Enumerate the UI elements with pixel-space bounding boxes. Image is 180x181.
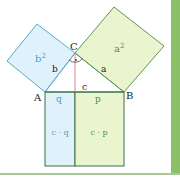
segment-q-label: q [56,94,62,104]
vertex-c-label: C [70,41,78,52]
rect-cq-label: c · q [51,128,68,137]
side-b-label: b [52,64,58,74]
bottom-rule [0,173,180,175]
vertex-b-label: B [126,90,133,101]
pythagoras-euclid-diagram: C A B b a c b2 a2 q p c · q c · p [0,0,180,181]
rect-cp-label: c · p [90,128,107,137]
segment-p-label: p [95,94,101,104]
right-angle-dot-icon [75,59,77,61]
vertex-a-label: A [33,92,42,103]
side-c-label: c [82,82,87,92]
side-a-label: a [101,64,107,74]
side-bar [171,0,180,174]
